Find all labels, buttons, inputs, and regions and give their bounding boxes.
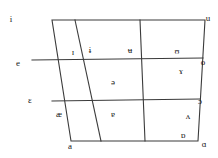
vowel-symbol-near-close-near-front-unrounded: ɪ: [72, 48, 75, 57]
chart-lines: [32, 20, 205, 141]
vowel-symbol-close-back-rounded: u: [206, 14, 211, 23]
vowel-symbol-near-open-front-unrounded: æ: [56, 110, 62, 119]
vowel-symbol-open-back-unrounded: ɑ: [202, 140, 207, 149]
vowel-symbol-open-mid-back-unrounded: ʌ: [186, 112, 191, 121]
vowel-symbol-close-front-unrounded: i: [10, 15, 13, 24]
grid-line-open-mid: [52, 99, 200, 101]
vowel-trapezoid-outline: [52, 20, 205, 141]
vowel-symbol-open-mid-front-unrounded: ɛ: [28, 96, 32, 105]
vowel-symbol-near-open-central: ɐ: [111, 110, 115, 119]
grid-line-central-divider: [140, 20, 145, 141]
vowel-symbol-open-front-unrounded: a: [68, 142, 72, 151]
vowel-symbol-mid-central-schwa: ə: [111, 78, 115, 87]
vowel-symbol-close-central-rounded: ʉ: [128, 46, 133, 55]
vowel-symbol-close-mid-front-unrounded: e: [16, 59, 20, 68]
vowel-symbol-close-central-unrounded: ɨ: [89, 46, 92, 55]
vowel-symbol-open-back-rounded: ɒ: [181, 131, 186, 140]
vowel-chart: iuɪɨʉʊeoɤəɛɔæɐʌɒaɑ: [0, 0, 218, 158]
vowel-symbol-close-mid-back-rounded: o: [201, 58, 206, 67]
vowel-symbol-close-mid-back-unrounded: ɤ: [179, 67, 183, 76]
vowel-symbol-open-mid-back-rounded: ɔ: [198, 97, 202, 106]
grid-line-near-front-divider: [75, 20, 101, 141]
vowel-symbol-near-close-near-back-rounded: ʊ: [175, 47, 180, 56]
